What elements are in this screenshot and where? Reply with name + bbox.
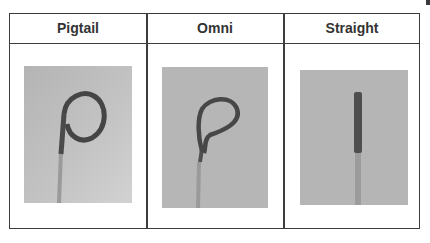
pigtail-catheter-photo: [24, 66, 132, 203]
column-divider: [146, 14, 148, 228]
catheter-comparison-table: Pigtail Omni Straight: [9, 13, 420, 229]
corner-mark: [426, 0, 430, 5]
column-divider: [283, 14, 285, 228]
straight-catheter-photo: [300, 70, 408, 205]
header-straight: Straight: [284, 14, 420, 42]
omni-catheter-photo: [162, 67, 268, 208]
header-row: Pigtail Omni Straight: [10, 14, 419, 44]
header-omni: Omni: [147, 14, 283, 42]
header-pigtail: Pigtail: [10, 14, 146, 42]
